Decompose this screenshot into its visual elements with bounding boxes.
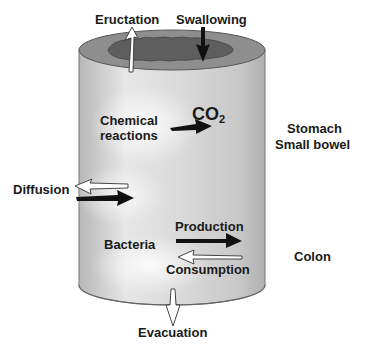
stomach-label: Stomach	[287, 121, 342, 136]
small-bowel-label: Small bowel	[275, 137, 350, 152]
co2-label: CO2	[192, 104, 225, 129]
co2-text: CO	[192, 104, 219, 124]
chemical-reactions-label-line2: reactions	[100, 128, 158, 143]
diffusion-label: Diffusion	[13, 182, 69, 197]
eructation-label: Eructation	[95, 12, 159, 27]
bacteria-label: Bacteria	[104, 237, 155, 252]
swallowing-label: Swallowing	[176, 12, 247, 27]
chemical-reactions-label-line1: Chemical	[100, 113, 158, 128]
evacuation-label: Evacuation	[138, 325, 207, 340]
consumption-label: Consumption	[166, 262, 250, 277]
colon-label: Colon	[294, 249, 331, 264]
gut-cylinder-diagram	[0, 0, 372, 350]
co2-subscript: 2	[219, 113, 225, 125]
cylinder-top-rim	[79, 30, 265, 70]
production-label: Production	[175, 219, 244, 234]
